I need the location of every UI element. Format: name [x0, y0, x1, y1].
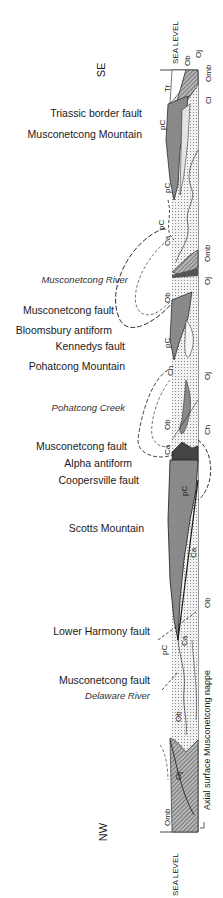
label-musconetcong-fault-3: Musconetcong fault	[59, 674, 150, 686]
formation-label-pc-6: pC	[160, 645, 169, 655]
label-musconetcong-mountain: Musconetcong Mountain	[28, 128, 142, 140]
sea-level-label-top: SEA LEVEL	[171, 21, 180, 64]
formation-label-ca-2: Ca	[163, 445, 172, 455]
label-musconetcong-river: Musconetcong River	[41, 274, 128, 286]
label-alpha-antiform: Alpha antiform	[64, 457, 132, 469]
feature-labels: Triassic border fault Musconetcong Mount…	[0, 0, 142, 898]
formation-label-pc-5: pC	[180, 486, 189, 496]
formation-label-pc-1: pC	[158, 120, 167, 130]
formation-label-pc-3: pC	[157, 220, 166, 230]
formation-label-ob-5: Ob	[174, 711, 183, 722]
formation-label-ca-4: Ca	[180, 636, 189, 646]
formation-label-omb-2: Omb	[203, 245, 212, 262]
formation-label-pc-4: pC	[163, 338, 172, 348]
label-scotts-mountain: Scotts Mountain	[69, 522, 144, 534]
formation-label-cl: Cl	[204, 96, 213, 104]
formation-label-oj: Oj	[194, 50, 203, 58]
formation-label-oj-2: Oj	[203, 277, 212, 285]
label-pohatcong-creek: Pohatcong Creek	[52, 402, 125, 414]
formation-label-oj-3: Oj	[203, 372, 212, 380]
formation-label-omb-3: Omb	[163, 809, 172, 826]
sea-level-label-bottom: SEA LEVEL	[171, 853, 180, 896]
formation-label-ob-3: Ob	[163, 419, 172, 430]
label-musconetcong-fault-2: Musconetcong fault	[36, 440, 127, 452]
formation-label-ch-2: Ch	[203, 425, 212, 435]
formation-label-ch-1: Ch	[166, 366, 175, 376]
label-pohatcong-mountain: Pohatcong Mountain	[29, 360, 125, 372]
formation-label-ca-3: Ca	[189, 548, 198, 558]
formation-label-tr: Tr	[163, 85, 172, 92]
formation-label-pc-2: pC	[163, 183, 172, 193]
label-lower-harmony-fault: Lower Harmony fault	[53, 625, 150, 637]
axial-surface-label: Axial surface Musconetcong nappe	[202, 670, 212, 810]
martinsburg-unit-bottom	[170, 738, 198, 832]
label-coopersville-fault: Coopersville fault	[58, 474, 139, 486]
label-delaware-river: Delaware River	[85, 690, 150, 702]
label-triassic-border-fault: Triassic border fault	[50, 107, 142, 119]
formation-label-omb: Omb	[204, 65, 213, 82]
formation-label-ob-2: Ob	[163, 292, 172, 303]
label-kennedys-fault: Kennedys fault	[56, 340, 125, 352]
label-musconetcong-fault-1: Musconetcong fault	[23, 304, 114, 316]
label-bloomsbury-antiform: Bloomsbury antiform	[16, 324, 112, 336]
formation-label-ca-1: Ca	[163, 236, 172, 246]
formation-label-ob: Ob	[183, 55, 192, 66]
formation-label-oj-4: Oj	[174, 772, 183, 780]
formation-label-ob-4: Ob	[203, 597, 212, 608]
